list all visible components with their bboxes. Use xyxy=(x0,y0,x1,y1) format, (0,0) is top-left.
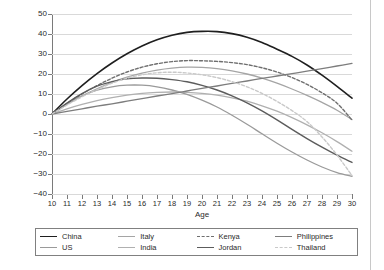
x-tick-label: 16 xyxy=(138,200,146,208)
x-tick-label: 13 xyxy=(93,200,101,208)
series-lines xyxy=(52,14,352,194)
x-axis-ticks: 1011121314151617181920212223242526272829… xyxy=(52,195,352,211)
x-tick-label: 24 xyxy=(258,200,266,208)
x-tick-label: 21 xyxy=(213,200,221,208)
legend-swatch-thailand xyxy=(275,247,292,248)
x-tick-label: 15 xyxy=(123,200,131,208)
legend-item-india[interactable]: India xyxy=(118,242,196,253)
x-tick-label: 20 xyxy=(198,200,206,208)
x-tick-label: 23 xyxy=(243,200,251,208)
x-tick-label: 22 xyxy=(228,200,236,208)
legend-item-thailand[interactable]: Thailand xyxy=(275,242,353,253)
series-line-us xyxy=(52,85,352,176)
x-tick-label: 25 xyxy=(273,200,281,208)
legend-item-italy[interactable]: Italy xyxy=(118,231,196,242)
legend-item-jordan[interactable]: Jordan xyxy=(197,242,275,253)
legend-label: Jordan xyxy=(219,244,242,252)
legend-item-us[interactable]: US xyxy=(40,242,118,253)
legend-item-philippines[interactable]: Philippines xyxy=(275,231,353,242)
x-tick-label: 17 xyxy=(153,200,161,208)
series-line-china xyxy=(52,31,352,114)
legend-label: China xyxy=(62,233,82,241)
legend-label: Thailand xyxy=(297,244,326,252)
plot-area: 50403020100−10−20−30−40 xyxy=(52,14,352,194)
legend-swatch-kenya xyxy=(197,236,214,237)
legend-swatch-jordan xyxy=(197,247,214,248)
legend-label: Kenya xyxy=(219,233,240,241)
chart-container: Sensation-Seeking Composite*100 50403020… xyxy=(0,0,368,228)
x-tick-label: 10 xyxy=(48,200,56,208)
legend-item-kenya[interactable]: Kenya xyxy=(197,231,275,242)
x-axis-label: Age xyxy=(52,210,352,220)
page-margin-rule xyxy=(370,0,371,270)
x-tick-label: 14 xyxy=(108,200,116,208)
x-tick-label: 18 xyxy=(168,200,176,208)
legend-label: Italy xyxy=(140,233,154,241)
legend-swatch-india xyxy=(118,247,135,248)
legend-swatch-philippines xyxy=(275,236,292,237)
legend-label: US xyxy=(62,244,72,252)
x-tick-label: 12 xyxy=(78,200,86,208)
x-tick-label: 29 xyxy=(333,200,341,208)
legend-swatch-italy xyxy=(118,236,135,237)
legend-swatch-us xyxy=(40,247,57,248)
x-tick-label: 11 xyxy=(63,200,71,208)
x-tick-label: 26 xyxy=(288,200,296,208)
legend-label: India xyxy=(140,244,156,252)
x-tick-label: 19 xyxy=(183,200,191,208)
legend-swatch-china xyxy=(40,236,57,237)
legend-item-china[interactable]: China xyxy=(40,231,118,242)
x-tick-label: 30 xyxy=(348,200,356,208)
x-tick-label: 28 xyxy=(318,200,326,208)
chart-screenshot: Sensation-Seeking Composite*100 50403020… xyxy=(0,0,384,270)
x-tick-label: 27 xyxy=(303,200,311,208)
legend-label: Philippines xyxy=(297,233,333,241)
chart-legend: ChinaUSItalyIndiaKenyaJordanPhilippinesT… xyxy=(35,228,358,256)
